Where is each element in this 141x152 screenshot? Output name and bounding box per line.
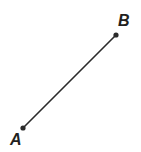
point-b-dot [113, 32, 118, 37]
point-a-label: A [10, 132, 22, 148]
point-a-dot [20, 125, 25, 130]
point-b-label: B [118, 13, 130, 29]
line-segment-figure: A B [0, 0, 141, 152]
